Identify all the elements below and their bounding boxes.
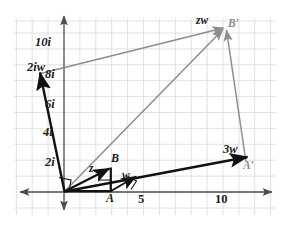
- label-point-B: B: [111, 152, 119, 164]
- label-point-A: A: [106, 192, 114, 204]
- y-tick-2i: 2i: [45, 156, 55, 169]
- label-point-B-prime: B′: [228, 18, 239, 30]
- x-tick-5: 5: [138, 193, 144, 206]
- figure-canvas: 2iw z w 3w zw A B A′ B′ 10i 8i 6i 4i 2i …: [0, 0, 281, 225]
- label-2iw: 2iw: [27, 61, 45, 74]
- label-3w: 3w: [223, 143, 238, 156]
- y-tick-4i: 4i: [43, 126, 53, 139]
- y-tick-10i: 10i: [35, 36, 51, 49]
- x-tick-10: 10: [215, 193, 228, 206]
- y-tick-8i: 8i: [45, 68, 55, 81]
- label-w: w: [122, 170, 130, 182]
- vector-2iw-to-Bprime: [41, 28, 224, 74]
- label-point-A-prime: A′: [243, 160, 254, 172]
- axes: [20, 16, 272, 210]
- y-tick-6i: 6i: [45, 98, 55, 111]
- label-z: z: [89, 163, 93, 175]
- label-zw: zw: [196, 15, 208, 27]
